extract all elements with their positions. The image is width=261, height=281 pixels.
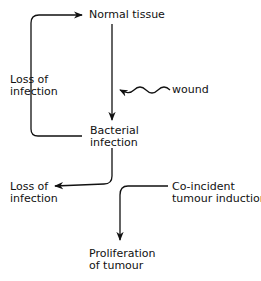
label-wound: wound	[172, 84, 209, 96]
label-loss-of-infection-loop: Loss of infection	[10, 74, 58, 98]
node-line-2: infection	[10, 193, 58, 205]
node-loss-of-infection: Loss of infection	[10, 181, 58, 205]
wound-squiggle-arrow	[120, 87, 170, 93]
label-line-2: infection	[10, 86, 58, 98]
node-bacterial-infection: Bacterial infection	[90, 125, 139, 149]
node-normal-tissue: Normal tissue	[89, 9, 165, 21]
node-line-2: of tumour	[89, 260, 156, 272]
node-line-2: tumour induction	[172, 193, 261, 205]
node-coincident-tumour-induction: Co-incident tumour induction	[172, 181, 261, 205]
infection-tumour-flow-diagram: Normal tissue Loss of infection wound Ba…	[0, 0, 261, 281]
bacterial-to-loss-arrow	[55, 148, 112, 186]
coincident-to-proliferation-arrow	[120, 186, 168, 240]
node-line-2: infection	[90, 137, 139, 149]
node-proliferation-of-tumour: Proliferation of tumour	[89, 248, 156, 272]
